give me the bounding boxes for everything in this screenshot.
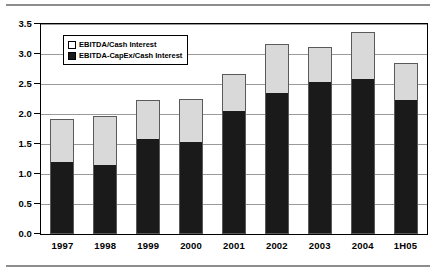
legend-label: EBITDA-CapEx/Cash Interest <box>79 51 182 60</box>
y-tick-label: 1.5 <box>0 138 32 149</box>
bar-lower-segment <box>352 79 374 233</box>
y-tick-mark <box>34 233 40 234</box>
y-tick-mark <box>34 83 40 84</box>
bar-total-segment <box>179 99 203 234</box>
y-tick-label: 3.5 <box>0 18 32 29</box>
y-tick-mark <box>34 53 40 54</box>
bar-lower-segment <box>137 139 159 233</box>
bar-total-segment <box>136 100 160 234</box>
bar-lower-segment <box>266 93 288 233</box>
y-tick-label: 1.0 <box>0 168 32 179</box>
stacked-bar-chart: 3.5 3.0 2.5 2.0 1.5 1.0 0.5 0.0 19971998… <box>0 12 436 262</box>
bar-total-segment <box>265 44 289 234</box>
y-tick-mark <box>34 143 40 144</box>
legend-item-ebitda-cash-interest: EBITDA/Cash Interest <box>68 39 182 50</box>
y-tick-label: 2.5 <box>0 78 32 89</box>
bar-lower-segment <box>309 82 331 233</box>
y-tick-label: 3.0 <box>0 48 32 59</box>
bar-total-segment <box>50 119 74 234</box>
bottom-divider-rule <box>6 265 430 267</box>
legend-item-ebitda-capex-cash-interest: EBITDA-CapEx/Cash Interest <box>68 50 182 61</box>
y-tick-mark <box>34 203 40 204</box>
legend-swatch-filled-square-icon <box>68 52 76 60</box>
bar-total-segment <box>93 116 117 234</box>
bar-total-segment <box>351 32 375 234</box>
y-tick-mark <box>34 113 40 114</box>
top-divider-rule <box>6 4 430 6</box>
bar-lower-segment <box>395 100 417 233</box>
bar-total-segment <box>394 63 418 234</box>
x-tick-label: 1H05 <box>378 240 434 251</box>
legend-swatch-open-square-icon <box>68 41 76 49</box>
bar-total-segment <box>308 47 332 234</box>
y-tick-label: 0.5 <box>0 198 32 209</box>
y-tick-label: 2.0 <box>0 108 32 119</box>
bar-lower-segment <box>51 162 73 233</box>
bar-lower-segment <box>94 165 116 233</box>
y-tick-mark <box>34 23 40 24</box>
bar-lower-segment <box>180 142 202 233</box>
chart-legend: EBITDA/Cash Interest EBITDA-CapEx/Cash I… <box>63 35 188 65</box>
y-tick-label: 0.0 <box>0 228 32 239</box>
legend-label: EBITDA/Cash Interest <box>79 40 157 49</box>
bar-lower-segment <box>223 111 245 233</box>
bar-total-segment <box>222 74 246 234</box>
y-tick-mark <box>34 173 40 174</box>
